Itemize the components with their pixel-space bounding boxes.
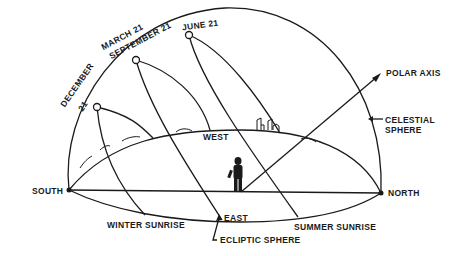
- june-sun-path-setting: [189, 35, 280, 133]
- west-label: WEST: [203, 133, 229, 142]
- observer-figure-icon: [227, 157, 242, 192]
- june-marker: [186, 32, 193, 39]
- north-label: NORTH: [388, 189, 420, 198]
- south-point: [67, 188, 72, 193]
- ecliptic-sphere-label: ECLIPTIC SPHERE: [220, 236, 301, 245]
- sphere-label: SPHERE: [385, 126, 422, 135]
- summer-sunrise-label: SUMMER SUNRISE: [294, 223, 376, 232]
- east-label: EAST: [224, 214, 248, 223]
- december-sun-path-setting: [97, 107, 153, 138]
- polar-axis-label: POLAR AXIS: [386, 69, 441, 78]
- december-marker: [94, 104, 101, 111]
- polar-axis-line: [241, 76, 378, 192]
- south-label: SOUTH: [32, 187, 63, 196]
- winter-sunrise-label: WINTER SUNRISE: [107, 221, 185, 230]
- buildings-icon: [80, 118, 316, 168]
- south-north-line: [69, 190, 381, 193]
- december-sun-path-rising: [97, 107, 145, 215]
- north-point: [379, 191, 384, 196]
- equinox-marker: [133, 57, 140, 64]
- equinox-sun-path-setting: [136, 60, 210, 130]
- celestial-label: CELESTIAL: [385, 116, 435, 125]
